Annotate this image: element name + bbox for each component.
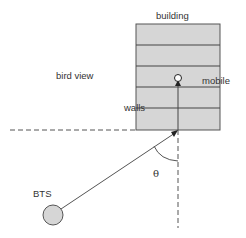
bird-view-label: bird view <box>56 70 94 81</box>
angle-arc <box>154 146 178 161</box>
mobile-marker-icon <box>175 75 182 82</box>
arrowhead-icon <box>171 130 178 137</box>
walls-label: walls <box>123 102 145 113</box>
mobile-label: mobile <box>202 75 230 86</box>
theta-label: θ <box>153 168 159 179</box>
diagram-canvas: building bird view mobile walls BTS θ <box>0 0 246 238</box>
bts-label: BTS <box>33 188 51 199</box>
bts-icon <box>43 205 63 225</box>
building-label: building <box>156 10 189 21</box>
